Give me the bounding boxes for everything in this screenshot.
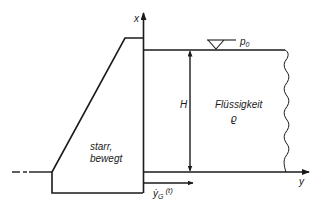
y-axis-label: y	[298, 176, 305, 187]
height-label: H	[180, 99, 188, 110]
rigid-dam-body	[52, 38, 143, 193]
fluid-dam-diagram: x p0 y H Flüssigkeit ϱ starr, bewegt ẏG(…	[0, 0, 321, 204]
pressure-label: p0	[239, 36, 250, 48]
density-label: ϱ	[231, 113, 237, 124]
free-surface-triangle-icon	[207, 40, 236, 49]
wavy-boundary	[284, 50, 289, 172]
fluid-label: Flüssigkeit	[215, 99, 263, 110]
body-label-moved: bewegt	[90, 153, 123, 164]
ground-velocity-label: ẏG(t)	[152, 186, 173, 200]
body-label-rigid: starr,	[90, 141, 112, 152]
x-axis-label: x	[133, 13, 140, 24]
